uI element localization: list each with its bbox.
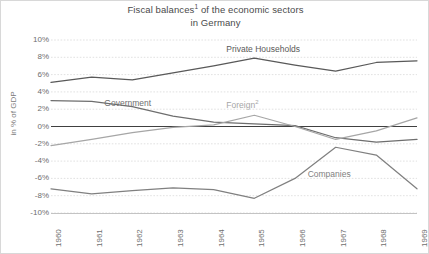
series-line-government — [51, 101, 417, 143]
series-line-private-households — [51, 58, 417, 82]
chart-frame: Fiscal balances1 of the economic sectors… — [0, 0, 429, 254]
series-lines — [51, 58, 417, 198]
zero-axis-line — [51, 127, 417, 214]
plot-area — [1, 1, 429, 254]
series-line-companies — [51, 147, 417, 198]
